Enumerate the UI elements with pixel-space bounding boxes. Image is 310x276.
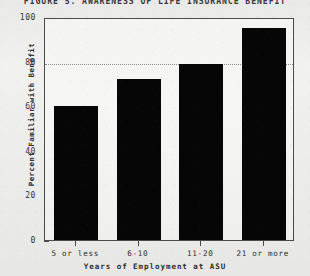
x-axis-title: Years of Employment at ASU <box>0 262 310 271</box>
x-axis-category-label: 21 or more <box>232 249 295 258</box>
y-axis-major-tick <box>44 241 49 242</box>
x-axis-category-label: 5 or less <box>44 249 107 258</box>
chart-title: FIGURE 5. AWARENESS OF LIFE INSURANCE BE… <box>0 0 310 7</box>
bar <box>54 106 98 240</box>
y-axis-tick-labels: 020406080100 <box>0 0 44 276</box>
y-axis-tick-label: 40 <box>25 148 36 156</box>
x-axis-tick <box>138 241 139 246</box>
y-axis-tick-label: 20 <box>25 192 36 200</box>
figure-container: FIGURE 5. AWARENESS OF LIFE INSURANCE BE… <box>0 0 310 276</box>
x-axis-category-label: 6-10 <box>107 249 170 258</box>
y-axis-tick-label: 80 <box>25 59 36 67</box>
y-axis-tick-label: 0 <box>31 237 36 245</box>
y-axis-tick-label: 60 <box>25 103 36 111</box>
x-axis-tick <box>263 241 264 246</box>
x-axis-category-label: 11-20 <box>169 249 232 258</box>
bar <box>242 28 286 240</box>
x-axis-tick <box>75 241 76 246</box>
x-axis-tick <box>200 241 201 246</box>
plot-area <box>44 18 294 241</box>
bar <box>117 79 161 240</box>
bar <box>179 64 223 240</box>
y-axis-tick-label: 100 <box>20 14 36 22</box>
